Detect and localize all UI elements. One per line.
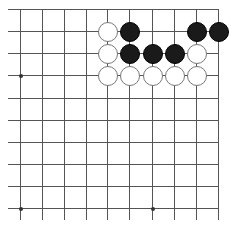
grid-line-vertical [42, 9, 43, 220]
white-stone[interactable] [165, 66, 185, 86]
black-stone[interactable] [120, 44, 140, 64]
star-point [19, 74, 23, 78]
white-stone[interactable] [98, 22, 118, 42]
grid-line-vertical [174, 9, 175, 220]
grid-line-vertical [152, 9, 153, 220]
white-stone[interactable] [120, 66, 140, 86]
black-stone[interactable] [165, 44, 185, 64]
star-point [19, 207, 23, 211]
white-stone[interactable] [187, 66, 207, 86]
star-point [151, 207, 155, 211]
black-stone[interactable] [187, 22, 207, 42]
white-stone[interactable] [143, 66, 163, 86]
grid-line-horizontal [8, 164, 219, 165]
white-stone[interactable] [187, 44, 207, 64]
grid-line-horizontal [8, 120, 219, 121]
go-board[interactable] [0, 0, 231, 226]
grid-line-vertical [20, 9, 21, 220]
grid-line-horizontal [8, 208, 219, 209]
grid-line-horizontal [8, 9, 219, 10]
grid-line-horizontal [8, 142, 219, 143]
grid-line-vertical [64, 9, 65, 220]
black-stone[interactable] [209, 22, 229, 42]
black-stone[interactable] [143, 44, 163, 64]
white-stone[interactable] [98, 66, 118, 86]
black-stone[interactable] [120, 22, 140, 42]
white-stone[interactable] [98, 44, 118, 64]
grid-line-horizontal [8, 98, 219, 99]
grid-line-horizontal [8, 186, 219, 187]
grid-line-vertical [86, 9, 87, 220]
